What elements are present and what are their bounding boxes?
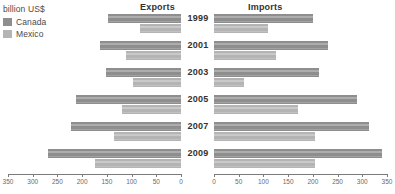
- bar-group-2009: [8, 147, 181, 174]
- axis-tick: [181, 174, 182, 177]
- bar-canada-imports-2005[interactable]: [214, 95, 357, 104]
- axis-tick: [57, 174, 58, 177]
- bar-mexico-exports-2005[interactable]: [122, 105, 181, 114]
- axis-tick: [8, 174, 9, 177]
- value-axis-imports: 050100150200250300350: [214, 174, 387, 194]
- bar-mexico-imports-2003[interactable]: [214, 78, 244, 87]
- axis-tick: [313, 174, 314, 177]
- bar-group-1999: [8, 12, 181, 39]
- panel-header-exports: Exports: [140, 2, 175, 12]
- axis-tick-label-50: 50: [153, 178, 160, 185]
- axis-line: [8, 174, 181, 175]
- bar-group-2001: [8, 39, 181, 66]
- value-axis-exports: 350300250200150100500: [8, 174, 181, 194]
- bar-group-2007: [8, 120, 181, 147]
- bar-canada-exports-1999[interactable]: [108, 14, 181, 23]
- axis-tick: [214, 174, 215, 177]
- bar-group-2003: [214, 66, 387, 93]
- chart-root: billion US$ Canada Mexico Exports Import…: [0, 0, 395, 194]
- bar-group-2005: [214, 93, 387, 120]
- bar-canada-exports-2005[interactable]: [76, 95, 181, 104]
- bar-mexico-imports-2009[interactable]: [214, 159, 315, 168]
- bar-canada-exports-2001[interactable]: [100, 41, 181, 50]
- axis-tick-label-0: 0: [212, 178, 216, 185]
- bar-mexico-exports-2001[interactable]: [126, 51, 181, 60]
- axis-tick-label-200: 200: [77, 178, 88, 185]
- bar-canada-imports-2001[interactable]: [214, 41, 328, 50]
- bar-mexico-imports-2001[interactable]: [214, 51, 276, 60]
- axis-tick: [33, 174, 34, 177]
- bar-canada-exports-2009[interactable]: [48, 149, 181, 158]
- axis-tick-label-200: 200: [307, 178, 318, 185]
- axis-tick: [263, 174, 264, 177]
- bar-mexico-imports-2005[interactable]: [214, 105, 298, 114]
- bar-canada-imports-2007[interactable]: [214, 122, 369, 131]
- axis-tick: [239, 174, 240, 177]
- category-axis-years: 199920012003200520072009: [183, 12, 213, 174]
- bar-canada-imports-2003[interactable]: [214, 68, 319, 77]
- bar-canada-imports-2009[interactable]: [214, 149, 382, 158]
- bar-canada-exports-2007[interactable]: [71, 122, 181, 131]
- axis-tick: [288, 174, 289, 177]
- panel-header-imports: Imports: [248, 2, 282, 12]
- year-label-2001: 2001: [183, 40, 213, 50]
- axis-line: [214, 174, 387, 175]
- axis-tick-label-250: 250: [52, 178, 63, 185]
- bar-mexico-exports-2009[interactable]: [95, 159, 182, 168]
- plot-area-imports: [214, 12, 387, 174]
- axis-tick-label-100: 100: [258, 178, 269, 185]
- year-label-1999: 1999: [183, 13, 213, 23]
- axis-tick-label-300: 300: [357, 178, 368, 185]
- bar-group-2007: [214, 120, 387, 147]
- axis-tick: [156, 174, 157, 177]
- year-label-2003: 2003: [183, 67, 213, 77]
- axis-tick-label-150: 150: [101, 178, 112, 185]
- plot-area-exports: [8, 12, 181, 174]
- bar-mexico-exports-2007[interactable]: [114, 132, 181, 141]
- bar-canada-exports-2003[interactable]: [106, 68, 181, 77]
- bar-group-2003: [8, 66, 181, 93]
- axis-tick: [107, 174, 108, 177]
- axis-tick-label-350: 350: [3, 178, 14, 185]
- axis-tick-label-250: 250: [332, 178, 343, 185]
- axis-tick: [387, 174, 388, 177]
- axis-tick-label-50: 50: [235, 178, 242, 185]
- axis-tick-label-100: 100: [126, 178, 137, 185]
- bar-group-2005: [8, 93, 181, 120]
- axis-tick: [362, 174, 363, 177]
- bar-mexico-imports-1999[interactable]: [214, 24, 268, 33]
- year-label-2005: 2005: [183, 94, 213, 104]
- bar-canada-imports-1999[interactable]: [214, 14, 313, 23]
- bar-mexico-exports-1999[interactable]: [140, 24, 181, 33]
- axis-tick-label-150: 150: [283, 178, 294, 185]
- bar-mexico-imports-2007[interactable]: [214, 132, 315, 141]
- axis-tick: [338, 174, 339, 177]
- year-label-2007: 2007: [183, 121, 213, 131]
- axis-tick-label-300: 300: [27, 178, 38, 185]
- axis-tick: [132, 174, 133, 177]
- year-label-2009: 2009: [183, 148, 213, 158]
- bar-group-2009: [214, 147, 387, 174]
- bar-group-2001: [214, 39, 387, 66]
- axis-tick-label-350: 350: [382, 178, 393, 185]
- axis-tick-label-0: 0: [179, 178, 183, 185]
- bar-group-1999: [214, 12, 387, 39]
- bar-mexico-exports-2003[interactable]: [133, 78, 181, 87]
- axis-tick: [82, 174, 83, 177]
